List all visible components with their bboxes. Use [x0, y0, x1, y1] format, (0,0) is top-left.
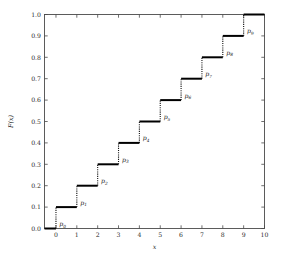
x-tick-label: 7 [200, 231, 204, 238]
y-axis-title: F(x) [7, 114, 15, 129]
step-label: p6 [184, 92, 191, 101]
y-tick-label: 0.9 [31, 32, 41, 39]
y-tick-label: 1.0 [31, 11, 41, 18]
step-label: p2 [101, 177, 108, 186]
x-tick-label: 9 [242, 231, 246, 238]
step-label: p3 [122, 156, 129, 165]
y-tick-label: 0.1 [31, 203, 41, 210]
y-tick-label: 0.4 [31, 139, 41, 146]
y-tick-label: 0.3 [31, 161, 41, 168]
y-tick-label: 0.6 [31, 96, 41, 103]
step-label: p8 [226, 49, 233, 58]
step-label: p9 [247, 27, 254, 36]
y-tick-label: 0.0 [31, 225, 41, 232]
step-label: p7 [205, 70, 212, 79]
step-label: p0 [59, 220, 66, 229]
step-point-labels: p0p1p2p3p4p5p6p7p8p9 [59, 27, 254, 228]
x-tick-label: 3 [117, 231, 121, 238]
x-tick-label: 8 [221, 231, 225, 238]
x-tick-label: 6 [179, 231, 183, 238]
y-tick-label: 0.2 [31, 182, 41, 189]
x-tick-label: 10 [261, 231, 269, 238]
y-tick-label: 0.5 [31, 118, 41, 125]
step-function-series [45, 15, 265, 229]
cdf-step-chart-figure: 012345678910 0.00.10.20.30.40.50.60.70.8… [0, 0, 283, 261]
x-tick-label: 2 [96, 231, 100, 238]
x-tick-label: 4 [137, 231, 141, 238]
chart-canvas: 012345678910 0.00.10.20.30.40.50.60.70.8… [0, 0, 283, 261]
x-tick-label: 5 [158, 231, 162, 238]
x-tick-label: 1 [75, 231, 79, 238]
step-label: p4 [143, 134, 150, 143]
x-axis-title: x [153, 243, 157, 251]
step-label: p1 [80, 199, 87, 208]
y-tick-label: 0.7 [31, 75, 41, 82]
x-tick-label: 0 [54, 231, 58, 238]
step-label: p5 [164, 113, 171, 122]
y-tick-label: 0.8 [31, 54, 41, 61]
